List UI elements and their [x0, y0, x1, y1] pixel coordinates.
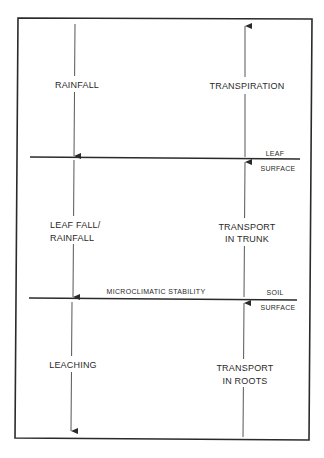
- nutrient-cycle-diagram: RAINFALL TRANSPIRATION LEAF SURFACE LEAF…: [0, 0, 324, 458]
- soil-surface-label-top: SOIL: [266, 289, 283, 296]
- leaf-surface-label-bottom: SURFACE: [260, 165, 295, 172]
- leaf-fall-label-line1: LEAF FALL/: [50, 220, 101, 230]
- leaf-surface-label-top: LEAF: [266, 150, 285, 157]
- leaf-fall-label-line2: RAINFALL: [50, 233, 94, 243]
- rainfall-label: RAINFALL: [55, 80, 99, 90]
- root-transport-label-line2: IN ROOTS: [222, 376, 267, 386]
- leaching-label: LEACHING: [49, 360, 97, 370]
- trunk-transport-label-line2: IN TRUNK: [225, 234, 269, 244]
- microclimatic-stability-label: MICROCLIMATIC STABILITY: [107, 288, 206, 295]
- leaf-surface-line: [30, 157, 300, 159]
- trunk-transport-label-line1: TRANSPORT: [218, 222, 275, 232]
- soil-surface-label-bottom: SURFACE: [260, 304, 295, 311]
- soil-surface-line: [29, 298, 297, 300]
- root-transport-label-line1: TRANSPORT: [216, 363, 273, 373]
- transpiration-label: TRANSPIRATION: [210, 81, 285, 91]
